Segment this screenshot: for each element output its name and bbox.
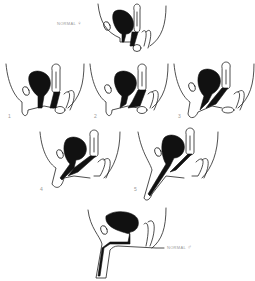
panel-stage-2 [90, 64, 168, 116]
panel-stage-1 [6, 64, 84, 116]
panel-normal-female [98, 4, 166, 52]
panel-stage-5 [138, 128, 218, 200]
label-normal-female: NORMAL ♀ [57, 20, 82, 26]
label-stage-1: 1 [8, 113, 11, 119]
label-stage-5: 5 [134, 186, 137, 192]
pelvic-diagrams [0, 0, 255, 281]
label-text: NORMAL [167, 245, 186, 250]
label-text: NORMAL [57, 21, 76, 26]
label-stage-3: 3 [178, 113, 181, 119]
label-stage-2: 2 [94, 113, 97, 119]
male-symbol-icon: ♂ [187, 244, 192, 250]
panel-stage-3 [174, 62, 254, 118]
label-normal-male: NORMAL ♂ [167, 244, 192, 250]
panel-stage-4 [40, 130, 120, 187]
female-symbol-icon: ♀ [77, 20, 82, 26]
label-stage-4: 4 [40, 186, 43, 192]
panel-normal-male [88, 208, 166, 278]
